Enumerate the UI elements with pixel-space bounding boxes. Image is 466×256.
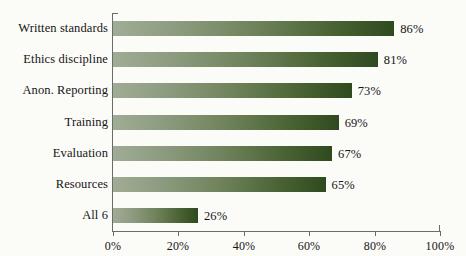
category-axis-labels: Written standards Ethics discipline Anon… xyxy=(0,0,108,256)
bar xyxy=(113,208,198,223)
y-axis-top-cap xyxy=(112,13,118,14)
category-label: Anon. Reporting xyxy=(22,84,108,97)
bar xyxy=(113,52,378,67)
bar-row: 81% xyxy=(113,52,440,67)
category-label: Training xyxy=(65,116,108,129)
bar xyxy=(113,21,394,36)
bar-row: 86% xyxy=(113,21,440,36)
x-axis-tick-label: 100% xyxy=(426,239,455,254)
x-axis-tick-label: 0% xyxy=(105,239,121,254)
bar-value-label: 86% xyxy=(400,23,423,36)
x-axis-tick xyxy=(113,231,114,236)
plot-area: 86% 81% 73% 69% 67% 65% 26% xyxy=(113,13,440,231)
bar-value-label: 73% xyxy=(358,85,381,98)
bar-chart: Written standards Ethics discipline Anon… xyxy=(0,0,466,256)
category-label: Resources xyxy=(56,178,108,191)
x-axis-tick-label: 80% xyxy=(364,239,387,254)
category-label: Written standards xyxy=(18,22,108,35)
bar xyxy=(113,146,332,161)
x-axis-tick-label: 20% xyxy=(167,239,190,254)
bar xyxy=(113,83,352,98)
category-label: Evaluation xyxy=(53,147,108,160)
bar xyxy=(113,177,326,192)
bar-value-label: 81% xyxy=(384,54,407,67)
x-axis-tick-label: 60% xyxy=(298,239,321,254)
x-axis-line xyxy=(112,231,440,232)
category-label: All 6 xyxy=(82,209,108,222)
bar-row: 73% xyxy=(113,83,440,98)
x-axis-tick xyxy=(440,231,441,236)
bar-row: 67% xyxy=(113,146,440,161)
x-axis-tick xyxy=(244,231,245,236)
x-axis-tick-label: 40% xyxy=(233,239,256,254)
bar-value-label: 65% xyxy=(332,179,355,192)
bar-value-label: 69% xyxy=(345,117,368,130)
bar xyxy=(113,115,339,130)
bar-row: 65% xyxy=(113,177,440,192)
x-axis-tick xyxy=(375,231,376,236)
bar-value-label: 26% xyxy=(204,210,227,223)
x-axis-tick xyxy=(309,231,310,236)
bar-row: 69% xyxy=(113,115,440,130)
bar-value-label: 67% xyxy=(338,148,361,161)
bar-row: 26% xyxy=(113,208,440,223)
x-axis-tick xyxy=(178,231,179,236)
category-label: Ethics discipline xyxy=(23,53,108,66)
